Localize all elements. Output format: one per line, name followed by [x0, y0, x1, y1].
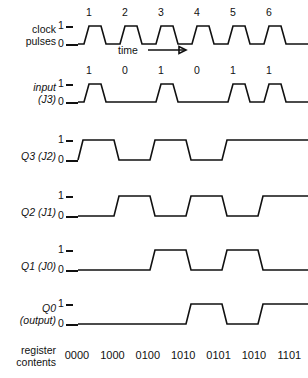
level-low-tick-clock — [66, 44, 78, 46]
input-bit-label: 1 — [224, 65, 242, 76]
row-label-q3: Q3 (J2) — [0, 150, 56, 162]
row-label-q3-line2: Q3 (J2) — [0, 150, 56, 162]
level-low-tick-input — [66, 102, 78, 104]
register-content-value: 0101 — [202, 349, 236, 361]
level-high-label-input: 1 — [58, 78, 64, 89]
row-label-clock: clockpulses — [0, 23, 56, 47]
level-high-tick-input — [66, 84, 73, 86]
register-content-value: 1010 — [166, 349, 200, 361]
row-label-q1-line2: Q1 (J0) — [0, 260, 56, 272]
level-low-tick-q3 — [66, 160, 78, 162]
row-label-q2: Q2 (J1) — [0, 206, 56, 218]
waveform-path-clock — [78, 26, 308, 44]
register-content-value: 0000 — [60, 349, 94, 361]
clock-pulse-number: 6 — [260, 7, 278, 18]
input-bit-label: 1 — [152, 65, 170, 76]
input-bit-label: 1 — [260, 65, 278, 76]
row-label-q0-line2: (output) — [0, 314, 56, 326]
level-high-tick-clock — [66, 26, 73, 28]
timing-diagram: clockpulses10123456input(J3)10101011Q3 (… — [0, 0, 308, 378]
input-bit-label: 0 — [116, 65, 134, 76]
register-content-value: 1010 — [237, 349, 271, 361]
register-contents-label-line2: contents — [0, 356, 56, 368]
level-high-label-q2: 1 — [58, 190, 64, 201]
level-low-label-q0: 0 — [58, 318, 64, 329]
clock-pulse-number: 3 — [152, 7, 170, 18]
row-label-q1: Q1 (J0) — [0, 260, 56, 272]
level-high-tick-q1 — [66, 250, 73, 252]
waveform-path-input — [78, 84, 308, 102]
level-low-label-q1: 0 — [58, 264, 64, 275]
waveform-path-q0 — [78, 304, 308, 324]
time-arrow-head — [179, 47, 186, 54]
level-high-label-clock: 1 — [58, 20, 64, 31]
level-low-label-clock: 0 — [58, 38, 64, 49]
row-label-clock-line1: clock — [0, 23, 56, 35]
level-high-label-q0: 1 — [58, 298, 64, 309]
level-low-tick-q0 — [66, 324, 78, 326]
level-low-label-q3: 0 — [58, 154, 64, 165]
register-content-value: 1000 — [95, 349, 129, 361]
row-label-input: input(J3) — [0, 81, 56, 105]
row-label-clock-line2: pulses — [0, 35, 56, 47]
register-contents-label: registercontents — [0, 344, 56, 368]
level-high-label-q1: 1 — [58, 244, 64, 255]
level-low-label-q2: 0 — [58, 210, 64, 221]
row-label-q0-line1: Q0 — [0, 302, 56, 314]
level-low-tick-q1 — [66, 270, 78, 272]
row-label-input-line2: (J3) — [0, 93, 56, 105]
level-high-tick-q0 — [66, 304, 73, 306]
clock-pulse-number: 5 — [224, 7, 242, 18]
clock-pulse-number: 4 — [188, 7, 206, 18]
input-bit-label: 0 — [188, 65, 206, 76]
row-label-input-line1: input — [0, 81, 56, 93]
register-content-value: 0100 — [131, 349, 165, 361]
register-contents-label-line1: register — [0, 344, 56, 356]
level-low-label-input: 0 — [58, 96, 64, 107]
waveform-path-q3 — [78, 140, 308, 160]
register-content-value: 1101 — [272, 349, 306, 361]
level-low-tick-q2 — [66, 216, 78, 218]
waveform-path-q1 — [78, 250, 308, 270]
clock-pulse-number: 1 — [80, 7, 98, 18]
level-high-tick-q2 — [66, 196, 73, 198]
row-label-q2-line2: Q2 (J1) — [0, 206, 56, 218]
waveform-path-q2 — [78, 196, 308, 216]
clock-pulse-number: 2 — [116, 7, 134, 18]
level-high-label-q3: 1 — [58, 134, 64, 145]
input-bit-label: 1 — [80, 65, 98, 76]
time-axis-label: time — [118, 44, 138, 56]
row-label-q0: Q0(output) — [0, 302, 56, 326]
level-high-tick-q3 — [66, 140, 73, 142]
